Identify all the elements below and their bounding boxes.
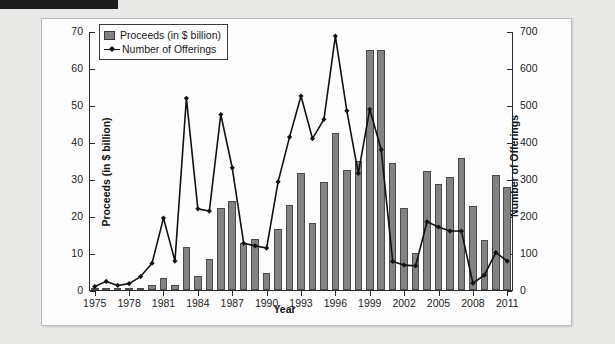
plot-area: 010203040506070 0100200300400500600700 1… (89, 32, 513, 291)
x-tick-label-2011: 2011 (496, 298, 519, 309)
bar-2005 (435, 184, 443, 290)
x-tick-label-1990: 1990 (255, 298, 278, 309)
bar-1977 (114, 288, 122, 290)
left-tick-20 (90, 217, 95, 218)
bar-1992 (286, 205, 294, 290)
right-tick-label-600: 600 (520, 63, 538, 74)
right-tick-label-200: 200 (520, 211, 538, 222)
bar-1991 (274, 229, 282, 290)
left-tick-label-0: 0 (77, 285, 83, 296)
x-tick-1999 (370, 291, 371, 296)
left-tick-70 (90, 32, 95, 33)
bar-1995 (320, 182, 328, 290)
line-diamond-icon (104, 45, 120, 54)
bar-2006 (446, 177, 454, 290)
bar-1980 (148, 285, 156, 290)
left-tick-40 (90, 143, 95, 144)
bar-1990 (263, 273, 271, 290)
right-axis-spine (512, 32, 513, 291)
chart-legend: Proceeds (in $ billion) Number of Offeri… (99, 24, 228, 60)
right-tick-300 (507, 180, 512, 181)
x-tick-1978 (129, 291, 130, 296)
left-tick-label-40: 40 (71, 137, 83, 148)
x-tick-label-1987: 1987 (221, 298, 244, 309)
bar-2002 (400, 208, 408, 291)
right-tick-label-700: 700 (520, 26, 538, 37)
bar-2000 (377, 50, 385, 291)
left-tick-50 (90, 106, 95, 107)
left-tick-label-60: 60 (71, 63, 83, 74)
legend-item-proceeds: Proceeds (in $ billion) (104, 28, 221, 42)
legend-label-offerings: Number of Offerings (122, 43, 216, 55)
x-tick-1996 (335, 291, 336, 296)
right-tick-500 (507, 106, 512, 107)
x-tick-2005 (439, 291, 440, 296)
bar-2008 (469, 206, 477, 290)
bar-1989 (251, 239, 259, 290)
bar-2007 (458, 158, 466, 290)
x-tick-1981 (163, 291, 164, 296)
chart-panel: Proceeds (in $ billion) Number of Offeri… (41, 18, 572, 326)
left-tick-30 (90, 180, 95, 181)
bar-2009 (481, 240, 489, 290)
left-tick-label-50: 50 (71, 100, 83, 111)
bar-2004 (423, 171, 431, 291)
bar-1982 (171, 285, 179, 290)
bar-2011 (503, 187, 511, 290)
right-tick-label-100: 100 (520, 248, 538, 259)
left-tick-label-10: 10 (71, 248, 83, 259)
bar-1986 (217, 208, 225, 291)
x-tick-1993 (301, 291, 302, 296)
right-tick-400 (507, 143, 512, 144)
bar-swatch-icon (104, 31, 115, 40)
right-tick-label-300: 300 (520, 174, 538, 185)
right-tick-label-400: 400 (520, 137, 538, 148)
bar-1999 (366, 50, 374, 291)
x-tick-label-1978: 1978 (117, 298, 140, 309)
x-tick-1990 (267, 291, 268, 296)
bar-2001 (389, 163, 397, 290)
bar-1975 (91, 288, 99, 290)
x-tick-label-2008: 2008 (461, 298, 484, 309)
x-tick-1984 (198, 291, 199, 296)
bar-1983 (183, 247, 191, 290)
x-tick-2008 (473, 291, 474, 296)
x-tick-1987 (232, 291, 233, 296)
x-tick-label-1984: 1984 (186, 298, 209, 309)
right-tick-700 (507, 32, 512, 33)
bar-1985 (206, 259, 214, 290)
x-tick-1975 (95, 291, 96, 296)
bar-2010 (492, 175, 500, 290)
legend-item-offerings: Number of Offerings (104, 42, 221, 56)
left-axis-spine (89, 32, 90, 291)
bar-1981 (160, 278, 168, 290)
right-tick-600 (507, 69, 512, 70)
x-tick-2011 (507, 291, 508, 296)
scan-artifact-strip (0, 0, 118, 9)
bar-1998 (355, 161, 363, 291)
bar-1988 (240, 243, 248, 290)
bar-1978 (125, 288, 133, 290)
bar-1996 (332, 133, 340, 290)
legend-label-proceeds: Proceeds (in $ billion) (120, 29, 221, 41)
x-tick-label-1993: 1993 (289, 298, 312, 309)
bar-1997 (343, 170, 351, 290)
left-tick-label-30: 30 (71, 174, 83, 185)
x-tick-label-1999: 1999 (358, 298, 381, 309)
bar-2003 (412, 253, 420, 290)
bar-1994 (309, 223, 317, 290)
bar-1979 (137, 288, 145, 290)
right-tick-label-0: 0 (520, 285, 526, 296)
x-tick-label-1996: 1996 (324, 298, 347, 309)
right-tick-label-500: 500 (520, 100, 538, 111)
x-tick-2002 (404, 291, 405, 296)
left-tick-label-70: 70 (71, 26, 83, 37)
x-tick-label-2002: 2002 (392, 298, 415, 309)
left-tick-10 (90, 254, 95, 255)
left-tick-label-20: 20 (71, 211, 83, 222)
x-tick-label-1975: 1975 (83, 298, 106, 309)
bar-1993 (297, 173, 305, 290)
bar-1976 (102, 288, 110, 290)
x-tick-label-1981: 1981 (152, 298, 175, 309)
left-tick-60 (90, 69, 95, 70)
